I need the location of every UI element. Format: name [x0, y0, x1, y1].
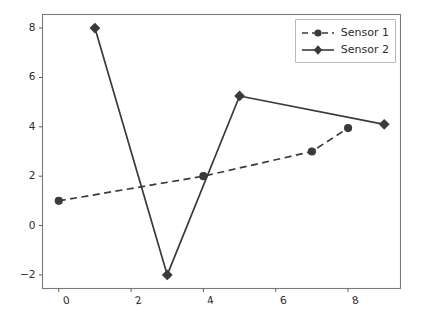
- data-point-marker-circle: [344, 124, 352, 132]
- data-point-marker-circle: [308, 147, 316, 155]
- y-axis-tick-label: 6: [0, 70, 36, 82]
- legend-label-sensor-1: Sensor 1: [341, 27, 389, 38]
- y-axis-tick-label: 4: [0, 120, 36, 132]
- y-axis-tick-label: 0: [0, 219, 36, 231]
- legend-label-sensor-2: Sensor 2: [341, 44, 389, 55]
- legend-entry: Sensor 2: [301, 41, 389, 58]
- data-point-marker-circle: [55, 197, 63, 205]
- legend-entry: Sensor 1: [301, 24, 389, 41]
- chart-legend: Sensor 1 Sensor 2: [295, 19, 396, 63]
- y-axis-tick-label: 8: [0, 21, 36, 33]
- legend-sample-dashed-circle-icon: [301, 25, 335, 41]
- legend-sample-solid-diamond-icon: [301, 42, 335, 58]
- chart-figure: 02468−202468 Sensor 1 Sensor 2: [0, 0, 422, 323]
- y-axis-tick-label: 2: [0, 169, 36, 181]
- y-axis-tick-label: −2: [0, 268, 36, 280]
